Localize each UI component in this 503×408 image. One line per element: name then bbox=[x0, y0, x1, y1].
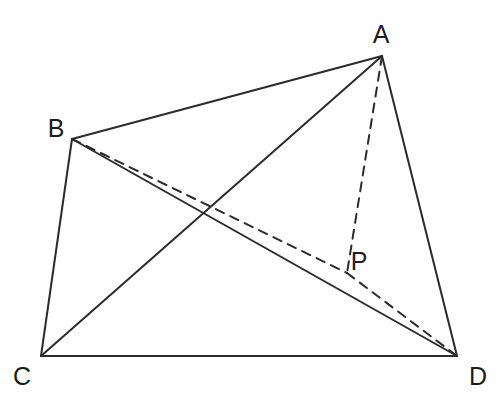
vertex-label-d: D bbox=[469, 364, 487, 389]
edge-bc bbox=[41, 139, 72, 356]
dashed-edge-group bbox=[72, 56, 457, 356]
vertex-label-b: B bbox=[48, 116, 65, 141]
tetrahedron-diagram: A B C D P bbox=[0, 0, 503, 408]
solid-edge-group bbox=[41, 56, 457, 356]
vertex-label-p: P bbox=[351, 249, 368, 274]
vertex-label-a: A bbox=[373, 22, 390, 47]
vertex-label-c: C bbox=[13, 364, 31, 389]
edge-pd bbox=[347, 273, 457, 356]
edge-ap bbox=[347, 56, 382, 273]
edge-bp bbox=[72, 139, 347, 273]
edge-bd bbox=[72, 139, 457, 356]
geometry-canvas bbox=[0, 0, 503, 408]
edge-ad bbox=[382, 56, 457, 356]
